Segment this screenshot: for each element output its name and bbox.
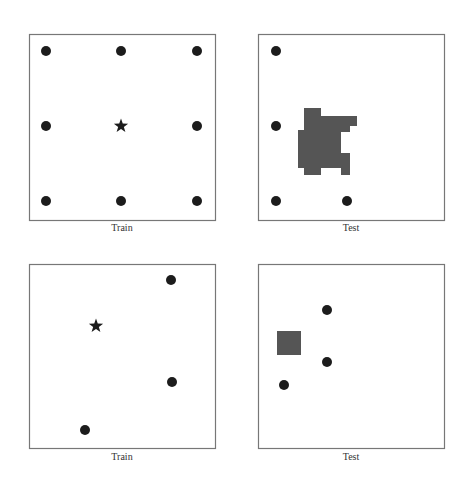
caption-bottom-left: Train	[62, 451, 182, 462]
panel-top-right	[259, 35, 445, 221]
panel-frame	[259, 35, 445, 221]
dot-marker	[322, 357, 332, 367]
square-shape	[277, 331, 301, 355]
dot-marker	[80, 425, 90, 435]
dot-marker	[41, 121, 51, 131]
dot-marker	[41, 196, 51, 206]
caption-top-right: Test	[291, 222, 411, 233]
panel-bottom-left	[30, 265, 216, 449]
panel-frame	[259, 265, 445, 449]
panel-top-left	[30, 35, 216, 221]
dot-marker	[192, 121, 202, 131]
dot-marker	[271, 121, 281, 131]
caption-bottom-right: Test	[291, 451, 411, 462]
panel-frame	[30, 265, 216, 449]
dot-marker	[116, 196, 126, 206]
dot-marker	[166, 275, 176, 285]
dot-marker	[342, 196, 352, 206]
dot-marker	[192, 196, 202, 206]
caption-top-left: Train	[62, 222, 182, 233]
diagram-canvas	[0, 0, 462, 487]
blob-shape	[298, 108, 357, 175]
star-icon	[89, 319, 103, 333]
dot-marker	[279, 380, 289, 390]
dot-marker	[192, 46, 202, 56]
dot-marker	[41, 46, 51, 56]
dot-marker	[116, 46, 126, 56]
dot-marker	[322, 305, 332, 315]
star-icon	[114, 119, 128, 133]
dot-marker	[271, 196, 281, 206]
dot-marker	[271, 46, 281, 56]
panel-bottom-right	[259, 265, 445, 449]
dot-marker	[167, 377, 177, 387]
